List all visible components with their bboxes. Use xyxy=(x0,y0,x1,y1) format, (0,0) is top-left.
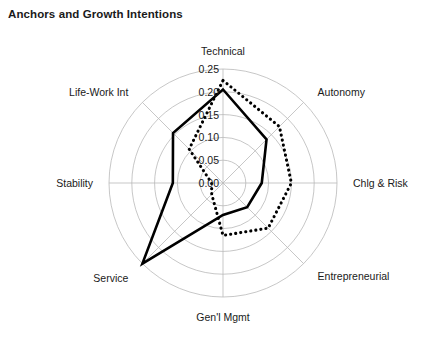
grid-spoke xyxy=(223,183,304,264)
radar-chart: 0.000.050.100.150.200.25 TechnicalAutono… xyxy=(0,0,434,338)
radial-tick-0.00: 0.00 xyxy=(199,177,220,189)
axis-label-autonomy: Autonomy xyxy=(318,86,366,98)
radial-tick-0.05: 0.05 xyxy=(199,154,220,166)
axis-label-chlg-risk: Chlg & Risk xyxy=(353,177,409,189)
radial-tick-0.20: 0.20 xyxy=(199,86,220,98)
axis-label-entrepreneurial: Entrepreneurial xyxy=(318,270,390,282)
radial-tick-0.10: 0.10 xyxy=(199,131,220,143)
radial-tick-0.25: 0.25 xyxy=(199,63,220,75)
axis-label-life-work-int: Life-Work Int xyxy=(69,86,128,98)
axis-label-technical: Technical xyxy=(201,45,245,57)
radar-svg: 0.000.050.100.150.200.25 TechnicalAutono… xyxy=(0,0,434,338)
axis-label-gen-l-mgmt: Gen'l Mgmt xyxy=(196,311,249,323)
axis-label-service: Service xyxy=(93,272,128,284)
axis-label-stability: Stability xyxy=(56,177,94,189)
radial-tick-0.15: 0.15 xyxy=(199,109,220,121)
